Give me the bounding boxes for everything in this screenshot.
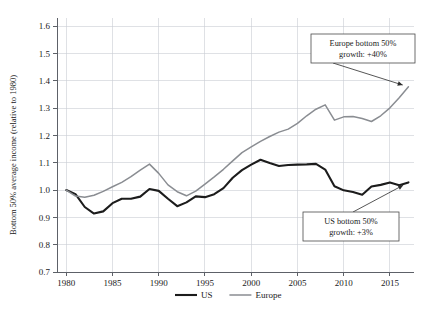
y-tick-label: 1.1 xyxy=(39,158,50,168)
y-tick-label: 1.5 xyxy=(39,49,51,59)
x-tick-label: 1995 xyxy=(196,278,215,288)
callout-line-1: US bottom 50% xyxy=(324,217,378,226)
x-tick-label: 1990 xyxy=(150,278,169,288)
y-tick-label: 1.0 xyxy=(39,185,51,195)
chart-figure: 0.70.80.91.01.11.21.31.41.51.6 198019851… xyxy=(0,0,427,319)
y-tick-label: 0.7 xyxy=(39,267,51,277)
x-tick-label: 1980 xyxy=(57,278,76,288)
y-tick-label: 1.6 xyxy=(39,21,51,31)
y-tick-label: 1.4 xyxy=(39,76,51,86)
legend-label-europe: Europe xyxy=(255,290,281,300)
y-tick-label: 0.8 xyxy=(39,240,51,250)
y-tick-label: 1.2 xyxy=(39,131,50,141)
line-chart: 0.70.80.91.01.11.21.31.41.51.6 198019851… xyxy=(0,0,427,319)
x-tick-label: 2000 xyxy=(242,278,261,288)
x-tick-label: 2015 xyxy=(381,278,400,288)
callout-line-2: growth: +3% xyxy=(329,228,373,237)
y-tick-label: 0.9 xyxy=(39,213,51,223)
x-tick-label: 2005 xyxy=(288,278,307,288)
y-tick-label: 1.3 xyxy=(39,103,51,113)
callout-line-2: growth: +40% xyxy=(339,50,387,59)
callout-line-1: Europe bottom 50% xyxy=(330,39,397,48)
x-tick-label: 1985 xyxy=(103,278,122,288)
y-axis-label: Bottom 50% average income (relative to 1… xyxy=(8,75,18,235)
legend-label-us: US xyxy=(201,290,213,300)
x-tick-label: 2010 xyxy=(335,278,354,288)
